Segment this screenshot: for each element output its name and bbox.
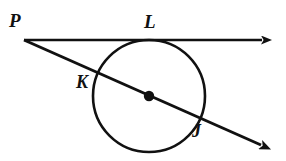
circle-center-dot bbox=[144, 91, 154, 101]
point-label-P: P bbox=[9, 11, 21, 30]
geometry-figure: P L K J bbox=[0, 0, 286, 161]
secant-line-PKJ bbox=[24, 40, 261, 145]
point-label-K: K bbox=[76, 73, 88, 91]
point-label-L: L bbox=[144, 12, 156, 31]
point-label-J: J bbox=[192, 122, 201, 140]
geometry-canvas bbox=[0, 0, 286, 161]
